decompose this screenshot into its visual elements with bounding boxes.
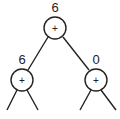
node-right: + 0 <box>85 52 107 91</box>
node-left-value: 6 <box>18 52 25 67</box>
tree-diagram: + 6 + 6 + 0 <box>0 0 120 119</box>
node-root-operator: + <box>52 23 58 34</box>
node-left-operator: + <box>19 75 25 86</box>
edge-right-leaf-a <box>80 90 91 110</box>
edge-right-leaf-b <box>101 90 116 110</box>
edge-left-leaf-b <box>27 90 38 110</box>
edge-root-left <box>28 37 48 70</box>
node-right-operator: + <box>93 75 99 86</box>
node-root: + 6 <box>44 0 66 39</box>
edge-root-right <box>63 37 89 70</box>
node-left: + 6 <box>11 52 33 91</box>
tree-svg: + 6 + 6 + 0 <box>0 0 120 119</box>
node-right-value: 0 <box>92 52 99 67</box>
node-root-value: 6 <box>51 0 58 15</box>
edge-left-leaf-a <box>7 90 17 110</box>
